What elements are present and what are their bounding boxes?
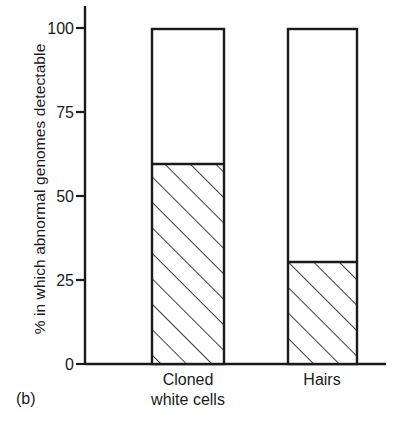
x-tick-label-cloned-white-cells: Cloned white cells <box>118 370 258 410</box>
y-axis-ticks <box>76 28 85 364</box>
panel-caption: (b) <box>16 390 36 408</box>
bar-cloned-white-cells <box>152 29 224 364</box>
bar-hairs <box>288 29 357 364</box>
y-tick-label-50: 50 <box>28 188 74 206</box>
y-tick-label-75: 75 <box>28 104 74 122</box>
bar-cloned-white-cells-filled-segment <box>152 164 224 364</box>
y-tick-label-100: 100 <box>28 20 74 38</box>
y-tick-label-0: 0 <box>28 356 74 374</box>
bar-hairs-filled-segment <box>288 262 357 364</box>
chart-figure: % in which abnormal genomes detectable 1… <box>0 0 398 428</box>
y-tick-label-25: 25 <box>28 272 74 290</box>
x-tick-label-hairs: Hairs <box>272 370 372 390</box>
